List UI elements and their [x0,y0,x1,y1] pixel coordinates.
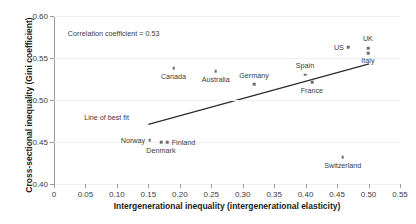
x-axis-tick [274,184,275,188]
gridline-y [54,16,400,17]
data-point[interactable] [341,156,344,159]
x-axis-tick [400,184,401,188]
data-point[interactable] [347,46,350,49]
gridline-y [54,58,400,59]
x-axis-tick-label: 0.40 [298,190,314,199]
gridline-y [54,100,400,101]
x-axis-tick-label: 0.50 [361,190,377,199]
y-axis-tick-label: 0.40 [32,180,48,189]
x-axis-tick-label: 0.20 [172,190,188,199]
data-point[interactable] [166,141,169,144]
annotation-correlation: Correlation coefficient = 0.53 [68,29,160,38]
scatter-chart: 0.400.450.500.550.6000.050.100.150.200.2… [0,0,416,224]
y-axis-tick-label: 0.60 [32,12,48,21]
data-point-label: France [301,86,323,95]
x-axis-tick [306,184,307,188]
data-point-label: Australia [202,75,230,84]
y-axis-tick-label: 0.55 [32,54,48,63]
data-point[interactable] [172,67,175,70]
x-axis-tick [148,184,149,188]
data-point[interactable] [304,74,307,77]
y-axis-tick [50,16,54,17]
x-axis-tick-label: 0.35 [266,190,282,199]
y-axis-tick-label: 0.45 [32,138,48,147]
y-axis-tick [50,142,54,143]
x-axis-title: Intergenerational inequality (intergener… [54,201,400,211]
x-axis-tick-label: 0.55 [392,190,408,199]
plot-area: 0.400.450.500.550.6000.050.100.150.200.2… [54,16,400,184]
data-point-label: Germany [239,71,269,80]
data-point[interactable] [367,47,370,50]
y-axis-tick [50,58,54,59]
x-axis-tick [117,184,118,188]
data-point[interactable] [367,52,370,55]
data-point[interactable] [253,83,256,86]
x-axis-tick-label: 0.30 [235,190,251,199]
x-axis-tick [369,184,370,188]
data-point-label: Norway [121,136,145,145]
x-axis-tick-label: 0.10 [109,190,125,199]
x-axis-tick-label: 0.25 [203,190,219,199]
data-point[interactable] [148,139,151,142]
data-point-label: Spain [296,61,314,70]
data-point-label: Denmark [146,146,175,155]
data-point-label: Italy [361,56,374,65]
data-point[interactable] [214,70,217,73]
x-axis-tick [243,184,244,188]
x-axis-tick-label: 0 [52,190,56,199]
gridline-y [54,184,400,185]
data-point[interactable] [160,141,163,144]
y-axis-title: Cross-sectional inequality (Gini coeffic… [24,10,34,200]
data-point-label: US [334,43,344,52]
x-axis-tick [85,184,86,188]
x-axis-tick [54,184,55,188]
y-axis-tick-label: 0.50 [32,96,48,105]
gridline-y [54,142,400,143]
x-axis-tick [180,184,181,188]
annotation-fit-line-label: Line of best fit [84,113,129,122]
x-axis-tick [211,184,212,188]
y-axis-tick [50,100,54,101]
data-point-label: Switzerland [324,161,361,170]
x-axis-tick-label: 0.15 [141,190,157,199]
x-axis-tick-label: 0.45 [329,190,345,199]
data-point-label: Finland [172,138,196,147]
x-axis-tick-label: 0.05 [78,190,94,199]
data-point[interactable] [311,81,314,84]
data-point-label: Canada [161,72,186,81]
x-axis-tick [337,184,338,188]
data-point-label: UK [363,34,373,43]
